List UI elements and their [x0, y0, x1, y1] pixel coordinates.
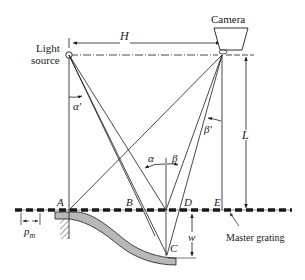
point-c-label: C	[170, 242, 178, 254]
beta-label: β	[171, 152, 178, 164]
point-d-label: D	[183, 196, 192, 208]
specimen-beam	[55, 212, 176, 265]
h-label: H	[119, 29, 130, 43]
fixed-support	[60, 219, 69, 239]
l-label: L	[241, 128, 249, 142]
light-source-label-1: Light	[36, 42, 60, 54]
shadow-moire-diagram: H Camera Light source α' β' α β L A B D …	[0, 0, 305, 280]
master-grating-label: Master grating	[226, 232, 285, 243]
alpha-prime-label: α'	[73, 100, 82, 112]
pm-label: pm	[23, 225, 36, 240]
light-source-label-2: source	[31, 54, 60, 66]
point-a-label: A	[56, 196, 64, 208]
camera-icon	[214, 28, 248, 50]
alpha-label: α	[148, 152, 154, 164]
camera-label: Camera	[211, 13, 245, 25]
beta-prime-label: β'	[203, 123, 212, 135]
point-e-label: E	[213, 196, 221, 208]
w-label: w	[188, 231, 196, 243]
point-b-label: B	[126, 196, 133, 208]
